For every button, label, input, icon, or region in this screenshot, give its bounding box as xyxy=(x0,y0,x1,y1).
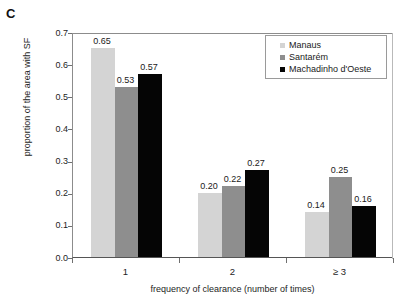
y-axis-tick-label: 0.4 xyxy=(42,125,68,134)
x-axis-tick-mark xyxy=(179,258,180,263)
bar-value-label: 0.53 xyxy=(108,76,144,85)
legend-swatch-icon xyxy=(280,55,285,60)
x-axis-tick-mark xyxy=(286,258,287,263)
x-axis-tick-label: 1 xyxy=(86,266,166,277)
legend-item-label: Santarém xyxy=(289,52,328,63)
legend-item: Machadinho d'Oeste xyxy=(269,63,382,75)
x-axis-tick-mark xyxy=(72,258,73,263)
bar-value-label: 0.65 xyxy=(84,37,120,46)
x-axis-tick-label: ≥ 3 xyxy=(300,266,380,277)
x-axis-tick-label: 2 xyxy=(193,266,273,277)
figure-panel-c: C 0.00.10.20.30.40.50.60.7 proportion of… xyxy=(0,0,419,307)
bar xyxy=(222,186,246,257)
bar xyxy=(305,212,329,257)
y-axis-tick-label: 0.5 xyxy=(42,93,68,102)
legend-item: Santarém xyxy=(269,51,382,63)
bar xyxy=(352,206,376,257)
y-axis-tick-label: 0.2 xyxy=(42,189,68,198)
y-axis-tick-label: 0.1 xyxy=(42,221,68,230)
y-axis-tick-label: 0.3 xyxy=(42,157,68,166)
bar xyxy=(115,87,139,257)
x-axis-title: frequency of clearance (number of times) xyxy=(72,284,393,294)
y-axis-tick-labels: 0.00.10.20.30.40.50.60.7 xyxy=(36,0,68,307)
legend-item-label: Manaus xyxy=(289,40,321,51)
bar-value-label: 0.16 xyxy=(345,195,381,204)
legend: ManausSantarémMachadinho d'Oeste xyxy=(265,35,387,79)
x-axis-tick-mark xyxy=(393,258,394,263)
plot-right-edge xyxy=(392,33,393,259)
y-axis-tick-label: 0.0 xyxy=(42,254,68,263)
bar-value-label: 0.27 xyxy=(238,159,274,168)
bar-value-label: 0.57 xyxy=(131,63,167,72)
bar-value-label: 0.22 xyxy=(215,175,251,184)
legend-swatch-icon xyxy=(280,43,285,48)
y-axis-tick-label: 0.6 xyxy=(42,61,68,70)
bar-value-label: 0.14 xyxy=(298,201,334,210)
y-axis-title: proportion of the area with SF xyxy=(22,2,32,192)
panel-label: C xyxy=(6,6,16,21)
y-axis-tick-label: 0.7 xyxy=(42,29,68,38)
bar xyxy=(329,177,353,257)
bar xyxy=(198,193,222,257)
bar-value-label: 0.25 xyxy=(322,166,358,175)
legend-item: Manaus xyxy=(269,39,382,51)
bar xyxy=(138,74,162,257)
legend-swatch-icon xyxy=(280,67,285,72)
legend-item-label: Machadinho d'Oeste xyxy=(289,64,371,75)
